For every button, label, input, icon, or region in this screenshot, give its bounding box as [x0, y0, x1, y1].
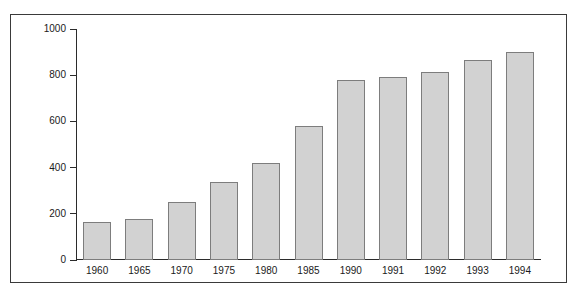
x-axis-tick-label: 1993	[456, 265, 498, 277]
x-axis-tick-label: 1992	[414, 265, 456, 277]
y-axis-tick-label: 800	[20, 70, 66, 80]
bar	[379, 77, 407, 260]
y-axis-tick-label: 600	[20, 116, 66, 126]
x-axis-tick-label: 1985	[287, 265, 329, 277]
x-axis-tick-label: 1990	[330, 265, 372, 277]
y-axis-tick-label: 200	[20, 209, 66, 219]
x-axis-tick-labels: 1960196519701975198019851990199119921993…	[76, 265, 541, 281]
y-axis-tick-label: 1000	[20, 24, 66, 34]
bar	[421, 72, 449, 260]
bar	[125, 219, 153, 260]
y-axis-tick-label: 400	[20, 163, 66, 173]
bar	[168, 202, 196, 260]
x-axis-tick-label: 1991	[372, 265, 414, 277]
x-axis-tick-label: 1965	[118, 265, 160, 277]
bar	[337, 80, 365, 260]
bar-chart-figure: 02004006008001000 1960196519701975198019…	[0, 0, 578, 294]
bar-series	[76, 29, 541, 260]
bar	[295, 126, 323, 260]
bar	[83, 222, 111, 260]
bar	[464, 60, 492, 261]
x-axis-tick-label: 1980	[245, 265, 287, 277]
x-axis-tick-label: 1975	[203, 265, 245, 277]
x-axis-tick-label: 1994	[499, 265, 541, 277]
x-axis-tick-label: 1970	[161, 265, 203, 277]
y-axis-tick-label: 0	[20, 255, 66, 265]
bar	[210, 182, 238, 260]
bar	[252, 163, 280, 260]
bar	[506, 52, 534, 260]
x-axis-tick-label: 1960	[76, 265, 118, 277]
